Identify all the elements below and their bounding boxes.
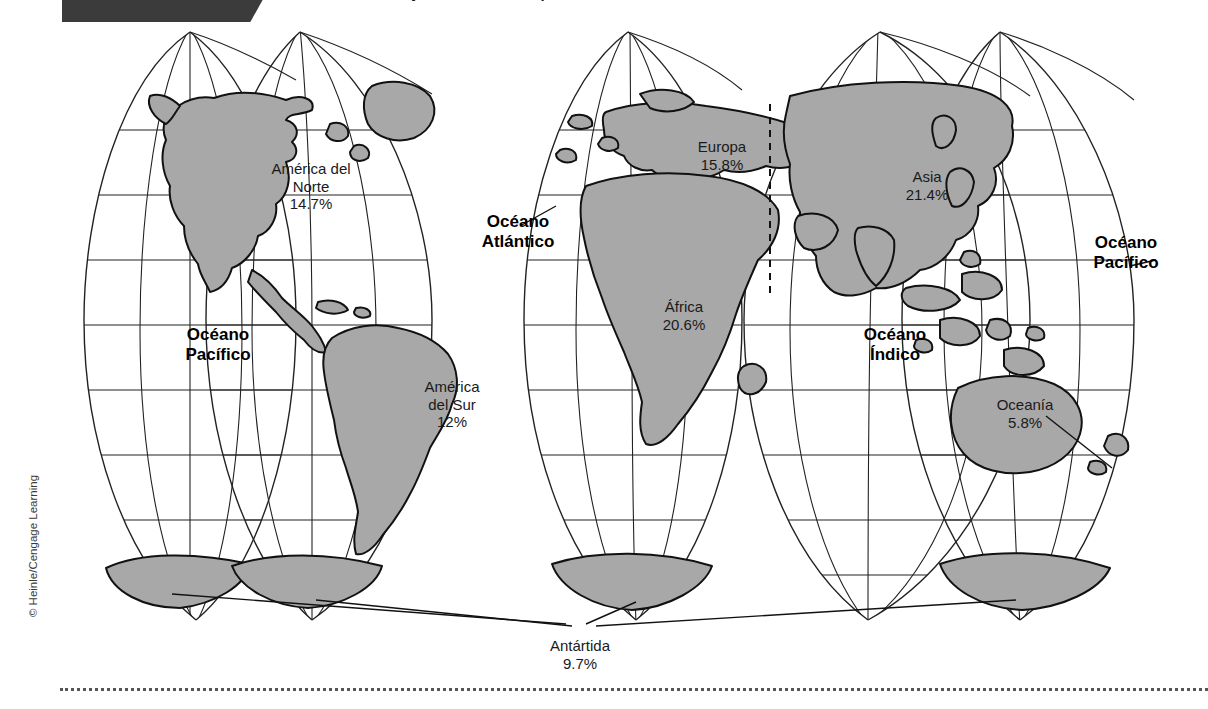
land-arctic-island-1 — [326, 123, 348, 141]
land-island-se-2 — [1026, 327, 1044, 341]
land-iceland — [568, 115, 592, 129]
land-antarctica-c — [552, 554, 712, 610]
land-new-zealand-1 — [1104, 434, 1128, 456]
leader-atlantic — [520, 206, 556, 226]
land-australia — [951, 376, 1082, 473]
land-new-zealand-2 — [1088, 461, 1106, 475]
figure-number-tab — [62, 0, 276, 22]
land-caribbean-1 — [316, 300, 348, 313]
leader-pacific-east — [1130, 260, 1156, 266]
land-europe — [603, 103, 809, 178]
land-central-america — [248, 270, 326, 352]
land-indonesia-1 — [902, 286, 960, 311]
land-borneo — [940, 318, 980, 345]
world-map-svg — [0, 20, 1208, 680]
figure-title: Los continentes y los océanos del planet… — [292, 0, 639, 1]
land-sulawesi — [986, 319, 1011, 340]
world-map: América del Norte 14.7% América del Sur … — [0, 20, 1208, 680]
land-antarctica-d — [940, 553, 1110, 610]
land-island-n-1 — [556, 149, 576, 163]
land-island-se-1 — [914, 339, 932, 353]
land-papua — [1004, 348, 1044, 375]
bottom-divider — [60, 688, 1208, 694]
land-north-america — [163, 93, 313, 292]
land-greenland — [364, 82, 434, 140]
land-africa — [581, 173, 779, 445]
land-madagascar — [738, 364, 766, 394]
land-arctic-island-2 — [350, 145, 369, 161]
publisher-credit: © Heinle/Cengage Learning — [27, 451, 39, 641]
land-antarctica-a — [106, 555, 250, 608]
land-british-isles — [598, 137, 618, 151]
land-indonesia-2 — [962, 272, 1002, 299]
figure-page: 1 Los continentes y los océanos del plan… — [0, 0, 1208, 709]
land-caribbean-2 — [354, 307, 370, 317]
leader-antarctica-b — [316, 600, 572, 626]
land-philippines — [960, 251, 980, 267]
